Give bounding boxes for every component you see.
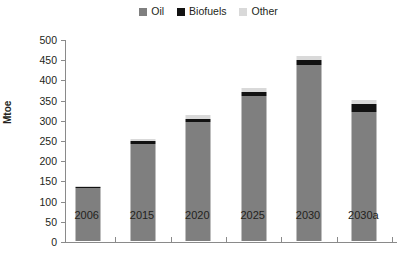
y-tick-mark — [61, 121, 66, 122]
stacked-bar-chart: Oil Biofuels Other Mtoe 5004504003503002… — [0, 0, 417, 278]
y-tick-mark — [61, 161, 66, 162]
x-tick-label: 2006 — [74, 209, 98, 221]
legend-swatch-oil — [139, 8, 147, 16]
bar-segment-oil — [186, 122, 211, 241]
bar-stack — [131, 139, 156, 241]
y-tick-mark — [61, 181, 66, 182]
y-tick-mark — [61, 101, 66, 102]
legend-label-biofuels: Biofuels — [189, 6, 226, 17]
y-tick-label: 350 — [39, 95, 57, 106]
x-tick-label: 2030a — [348, 209, 379, 221]
y-tick-label: 500 — [39, 35, 57, 46]
y-tick-mark — [61, 141, 66, 142]
y-tick-mark — [61, 80, 66, 81]
legend-swatch-other — [239, 8, 247, 16]
legend-item-other: Other — [239, 6, 277, 17]
legend-label-other: Other — [251, 6, 277, 17]
x-tick-label: 2020 — [185, 209, 209, 221]
x-tick-mark — [115, 237, 116, 242]
x-tick-label: 2030 — [296, 209, 320, 221]
y-tick-mark — [61, 40, 66, 41]
x-tick-label: 2025 — [240, 209, 264, 221]
y-tick-mark — [61, 202, 66, 203]
y-tick-label: 300 — [39, 115, 57, 126]
x-tick-mark — [337, 237, 338, 242]
y-axis-title: Mtoe — [2, 101, 13, 124]
y-tick-mark — [61, 242, 66, 243]
legend-item-oil: Oil — [139, 6, 164, 17]
y-tick-label: 150 — [39, 176, 57, 187]
y-tick-label: 100 — [39, 196, 57, 207]
bar-segment-oil — [352, 112, 377, 241]
y-tick-label: 200 — [39, 156, 57, 167]
y-tick-label: 50 — [45, 216, 57, 227]
chart-legend: Oil Biofuels Other — [0, 6, 417, 17]
y-tick-mark — [61, 222, 66, 223]
legend-label-oil: Oil — [151, 6, 164, 17]
bar-segment-oil — [131, 144, 156, 241]
x-tick-label: 2015 — [130, 209, 154, 221]
x-tick-mark — [226, 237, 227, 242]
legend-item-biofuels: Biofuels — [177, 6, 226, 17]
bar-stack — [186, 115, 211, 241]
y-tick-label: 450 — [39, 55, 57, 66]
legend-swatch-biofuels — [177, 8, 185, 16]
y-tick-label: 400 — [39, 75, 57, 86]
x-tick-mark — [171, 237, 172, 242]
y-tick-mark — [61, 60, 66, 61]
x-tick-mark — [392, 237, 393, 242]
bar-segment-biofuels — [352, 104, 377, 112]
x-tick-mark — [281, 237, 282, 242]
y-tick-label: 250 — [39, 136, 57, 147]
y-tick-label: 0 — [51, 237, 57, 248]
